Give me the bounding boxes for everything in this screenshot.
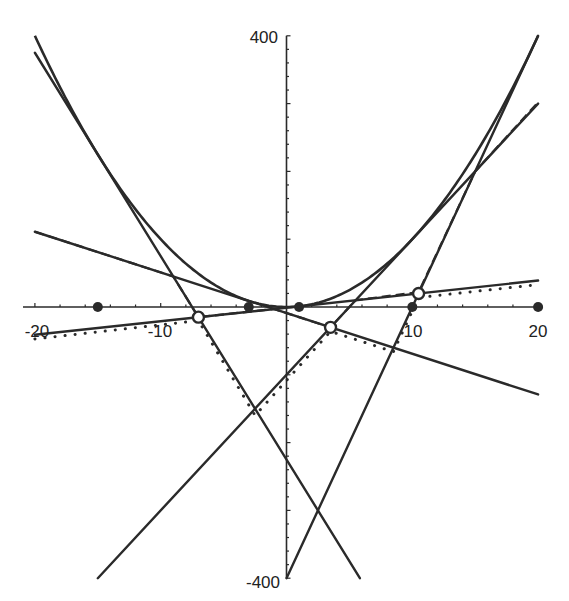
tangent-point-dot	[244, 302, 254, 312]
y-axis-label-top: 400	[250, 28, 278, 47]
x-axis-label-10: 10	[404, 322, 423, 341]
intersection-open-circle	[325, 322, 336, 333]
parabola-tangent-plot: 400 -400 -20 -10 10 20	[0, 0, 569, 601]
x-axis-label-minus10: -10	[148, 322, 173, 341]
tangent-point-dot	[93, 302, 103, 312]
tangent-point-dot	[294, 302, 304, 312]
y-axis-label-bottom: -400	[246, 573, 280, 592]
tangent-point-dot	[533, 302, 543, 312]
intersection-open-circle	[193, 312, 204, 323]
x-axis-label-minus20: -20	[25, 322, 50, 341]
intersection-open-circle	[413, 288, 424, 299]
x-axis-label-20: 20	[529, 322, 548, 341]
tangent-point-dot	[407, 302, 417, 312]
